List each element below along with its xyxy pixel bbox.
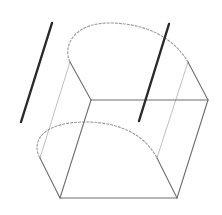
background — [0, 0, 222, 215]
cube-diagram — [0, 0, 222, 215]
